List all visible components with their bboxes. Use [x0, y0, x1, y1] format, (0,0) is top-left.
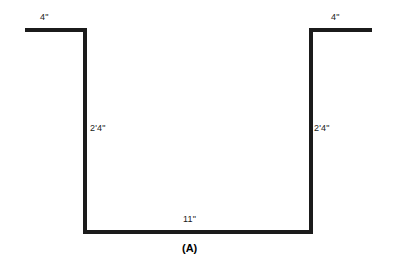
flange-right-dimension-label: 4"	[331, 13, 340, 22]
flange-left-dimension-label: 4"	[40, 13, 49, 22]
bottom-span-dimension-label: 11"	[183, 215, 196, 224]
diagram-canvas: 4" 4" 2'4" 2'4" 11" (A)	[0, 0, 394, 274]
channel-profile-drawing	[0, 0, 394, 274]
figure-caption: (A)	[182, 243, 197, 254]
web-left-dimension-label: 2'4"	[90, 124, 106, 133]
web-right-dimension-label: 2'4"	[314, 124, 330, 133]
